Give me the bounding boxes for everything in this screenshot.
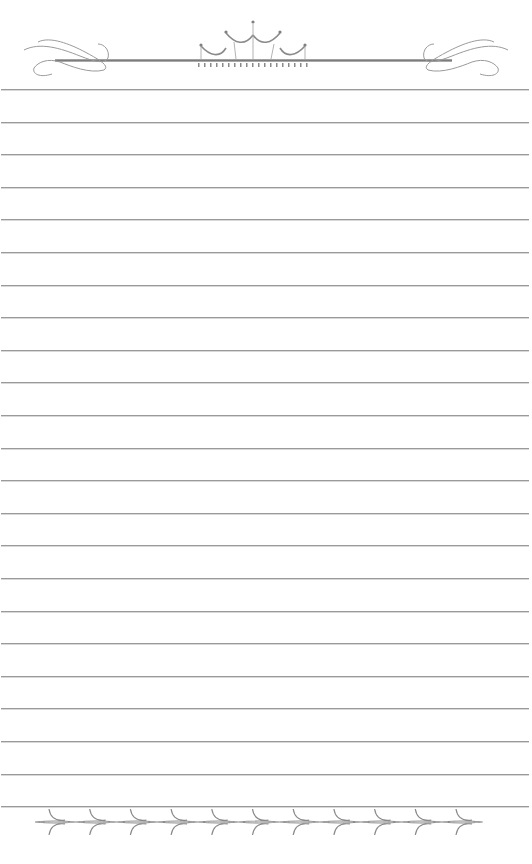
- rule-line: [1, 774, 529, 775]
- rule-line: [1, 154, 529, 155]
- rule-line: [1, 448, 529, 449]
- rule-line: [1, 611, 529, 612]
- rule-line: [1, 187, 529, 188]
- rule-line: [1, 252, 529, 253]
- rule-line: [1, 382, 529, 383]
- rule-line: [1, 545, 529, 546]
- rule-line: [1, 317, 529, 318]
- rule-line: [1, 89, 529, 90]
- rule-line: [1, 578, 529, 579]
- rule-line: [1, 350, 529, 351]
- crown-flourish-header-icon: [0, 0, 532, 80]
- rule-line: [1, 122, 529, 123]
- rule-line: [1, 676, 529, 677]
- rule-line: [1, 513, 529, 514]
- rule-line: [1, 643, 529, 644]
- diamond-chain-footer-icon: [0, 800, 532, 850]
- rule-line: [1, 415, 529, 416]
- lined-paper: [0, 0, 532, 864]
- rule-line: [1, 741, 529, 742]
- rule-line: [1, 219, 529, 220]
- rule-line: [1, 285, 529, 286]
- rule-line: [1, 708, 529, 709]
- rule-line: [1, 480, 529, 481]
